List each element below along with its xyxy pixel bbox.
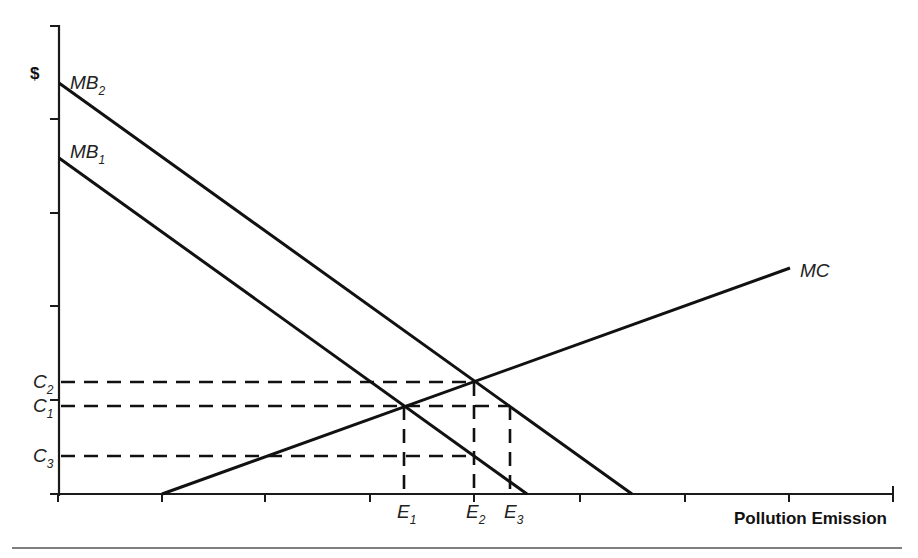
- e1-label: E1: [397, 501, 416, 527]
- c2-label: C2: [33, 371, 54, 397]
- pollution-diagram: $ MB2 MB1 MC C2 C1 C3 E1 E2 E3 Pollution…: [0, 0, 918, 558]
- y-axis-ticks: [50, 26, 59, 400]
- mb1-label: MB1: [70, 141, 105, 167]
- mc-label: MC: [800, 260, 830, 281]
- dashed-guides: [61, 382, 510, 494]
- mb1-curve: [59, 158, 527, 494]
- e2-label: E2: [466, 501, 486, 527]
- mb2-curve: [59, 83, 632, 494]
- y-axis-label: $: [30, 64, 40, 83]
- c1-label: C1: [33, 395, 53, 421]
- x-axis-label: Pollution Emission: [734, 509, 887, 528]
- c3-label: C3: [33, 445, 54, 471]
- e3-label: E3: [504, 501, 524, 527]
